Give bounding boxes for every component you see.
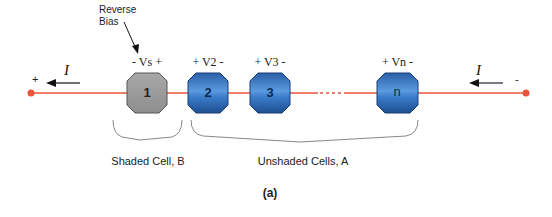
left-terminal-sign: + — [32, 73, 38, 85]
unshaded-group-label: Unshaded Cells, A — [245, 155, 361, 167]
shaded-group-label: Shaded Cell, B — [100, 155, 196, 167]
cell-n-id: n — [377, 84, 417, 99]
cell-1-voltage-label: - Vs + — [127, 55, 167, 70]
circuit-diagram — [0, 0, 552, 217]
cell-3-voltage-label: + V3 - — [250, 55, 290, 70]
cell-3-id: 3 — [250, 85, 290, 100]
shaded-group-brace — [113, 120, 182, 140]
unshaded-group-brace — [191, 120, 418, 142]
current-arrow-right-icon — [469, 79, 503, 87]
cell-2-voltage-label: + V2 - — [188, 55, 228, 70]
current-label-right: I — [476, 62, 481, 79]
reverse-bias-label: Reverse Bias — [99, 4, 136, 28]
cell-n-voltage-label: + Vn - — [377, 55, 418, 70]
current-arrow-left-icon — [46, 79, 80, 87]
cell-1-id: 1 — [127, 85, 167, 100]
figure-caption: (a) — [258, 186, 282, 200]
reverse-bias-line2: Bias — [99, 16, 136, 28]
left-terminal — [28, 90, 35, 97]
cell-2-id: 2 — [188, 85, 228, 100]
right-terminal-sign: - — [515, 73, 519, 85]
reverse-bias-line1: Reverse — [99, 4, 136, 16]
current-label-left: I — [64, 62, 69, 79]
right-terminal — [523, 90, 530, 97]
